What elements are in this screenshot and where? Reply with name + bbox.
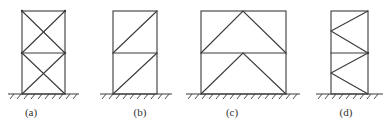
ground-support-icon [316,94,383,99]
frame-a-label: (a) [25,106,38,119]
frame-d-k-brace [331,11,368,53]
ground-support-icon [8,94,79,99]
frame-c-label: (c) [226,106,239,119]
frame-c: (c) [186,11,300,119]
frame-c-chevron [201,53,286,94]
frame-c-chevron [201,11,286,53]
frame-b-brace [113,11,157,53]
ground-support-icon [100,94,172,99]
frame-b-brace [113,53,157,94]
frame-d-k-brace [331,53,368,94]
frame-d: (d) [316,11,383,119]
braced-frames-diagram: (a) (b) (c) (d) [0,0,388,126]
frame-b-label: (b) [134,106,147,119]
frame-d-label: (d) [340,106,353,119]
frame-b: (b) [100,11,172,119]
ground-support-icon [186,94,300,99]
frame-a: (a) [8,10,79,119]
